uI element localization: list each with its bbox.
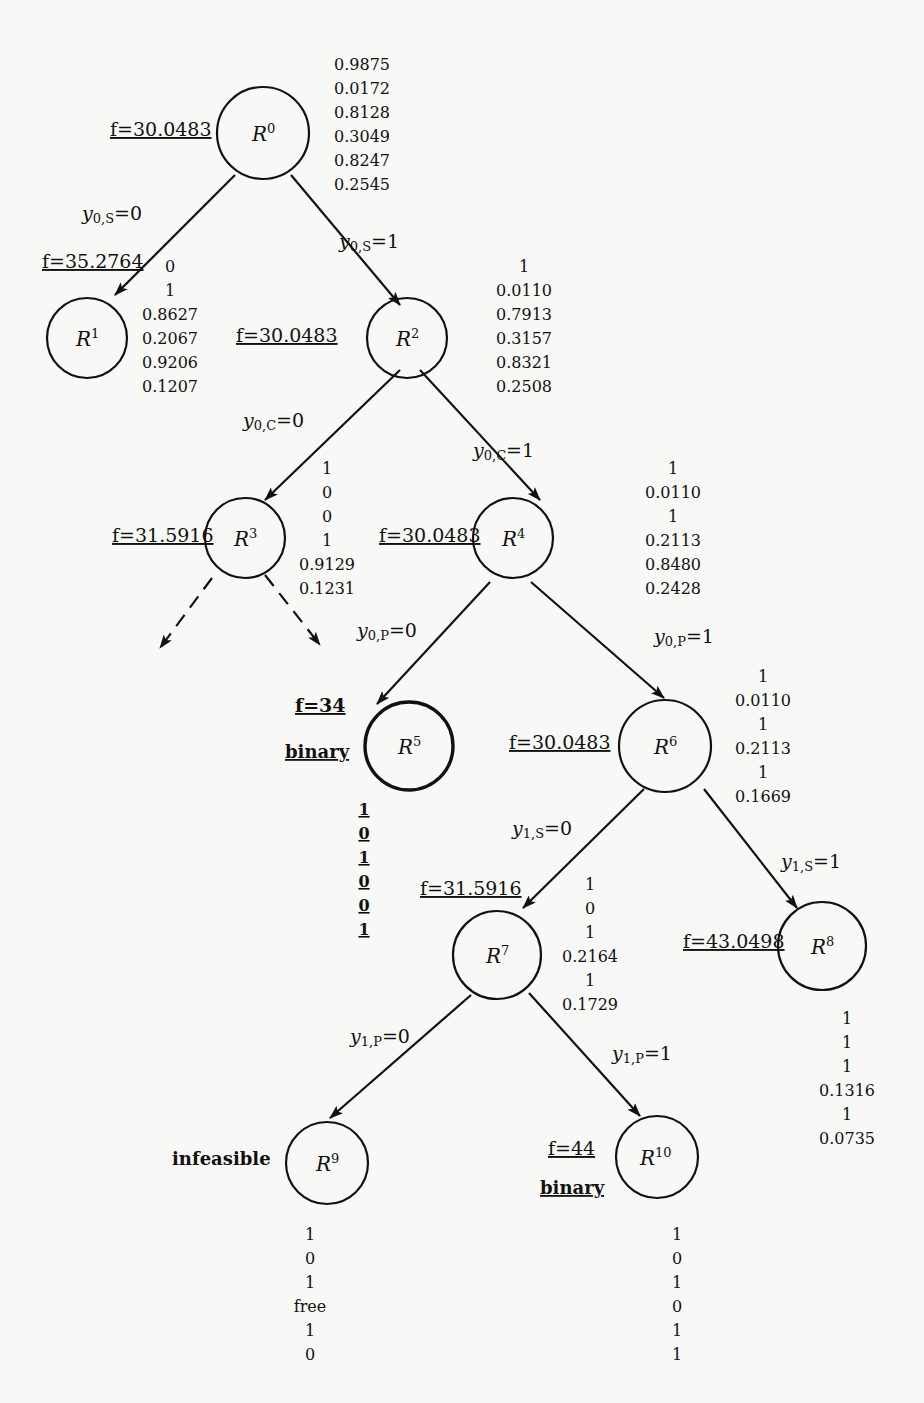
svg-text:1: 1 xyxy=(305,1273,315,1292)
svg-text:1: 1 xyxy=(668,507,678,526)
svg-text:0: 0 xyxy=(358,896,369,915)
node-label: R10 xyxy=(639,1145,672,1170)
objective-value: f=43.0498 xyxy=(683,930,785,952)
svg-text:0: 0 xyxy=(672,1249,682,1268)
svg-text:0.2067: 0.2067 xyxy=(142,329,198,348)
svg-text:1: 1 xyxy=(585,875,595,894)
branch-label-r7-r9: y1,P=0 xyxy=(349,1025,410,1049)
svg-text:1: 1 xyxy=(322,459,332,478)
node-r9: R9 infeasible 1 0 1 free 1 0 xyxy=(172,1122,368,1364)
svg-text:0: 0 xyxy=(672,1297,682,1316)
status-binary: binary xyxy=(540,1177,605,1198)
node-label: R2 xyxy=(395,326,419,351)
solution-vector: 1 0 1 free 1 0 xyxy=(294,1225,327,1364)
svg-text:1: 1 xyxy=(672,1225,682,1244)
objective-value: f=30.0483 xyxy=(509,731,611,753)
svg-text:0.8480: 0.8480 xyxy=(645,555,701,574)
svg-text:0.8128: 0.8128 xyxy=(334,103,390,122)
node-r6: R6 f=30.0483 1 0.0110 1 0.2113 1 0.1669 xyxy=(509,667,791,806)
solution-vector: 1 0 1 0 0 1 xyxy=(358,800,369,939)
objective-value: f=30.0483 xyxy=(379,524,481,546)
objective-value: f=35.2764 xyxy=(42,250,144,272)
svg-text:0.2545: 0.2545 xyxy=(334,175,390,194)
svg-text:0: 0 xyxy=(165,257,175,276)
svg-text:0.8321: 0.8321 xyxy=(496,353,552,372)
svg-text:0.1669: 0.1669 xyxy=(735,787,791,806)
objective-value: f=31.5916 xyxy=(112,524,214,546)
svg-text:0.1231: 0.1231 xyxy=(299,579,355,598)
svg-text:1: 1 xyxy=(758,667,768,686)
solution-vector: 1 0.0110 0.7913 0.3157 0.8321 0.2508 xyxy=(496,257,552,396)
solution-vector: 1 0 0 1 0.9129 0.1231 xyxy=(299,459,355,598)
branch-label-r6-r7: y1,S=0 xyxy=(511,817,572,841)
branch-label-r2-r4: y0,C=1 xyxy=(472,439,534,463)
svg-text:0.9206: 0.9206 xyxy=(142,353,198,372)
node-label: R3 xyxy=(233,526,257,551)
node-r8: R8 f=43.0498 1 1 1 0.1316 1 0.0735 xyxy=(683,902,875,1148)
svg-text:0.2113: 0.2113 xyxy=(645,531,701,550)
svg-text:1: 1 xyxy=(842,1009,852,1028)
edge-r4-r5 xyxy=(377,582,490,704)
solution-vector: 1 0.0110 1 0.2113 0.8480 0.2428 xyxy=(645,459,701,598)
svg-text:0.3049: 0.3049 xyxy=(334,127,390,146)
svg-text:1: 1 xyxy=(758,715,768,734)
svg-text:0.1316: 0.1316 xyxy=(819,1081,875,1100)
svg-text:1: 1 xyxy=(842,1033,852,1052)
svg-text:0.2164: 0.2164 xyxy=(562,947,618,966)
svg-text:0.0110: 0.0110 xyxy=(735,691,791,710)
svg-text:1: 1 xyxy=(672,1273,682,1292)
solution-vector: 0 1 0.8627 0.2067 0.9206 0.1207 xyxy=(142,257,198,396)
objective-value: f=31.5916 xyxy=(420,877,522,899)
svg-text:0.9875: 0.9875 xyxy=(334,55,390,74)
svg-text:0.8247: 0.8247 xyxy=(334,151,390,170)
branch-label-r0-r1: y0,S=0 xyxy=(81,202,142,226)
svg-text:0.3157: 0.3157 xyxy=(496,329,552,348)
svg-text:1: 1 xyxy=(165,281,175,300)
svg-text:0.8627: 0.8627 xyxy=(142,305,198,324)
status-infeasible: infeasible xyxy=(172,1148,271,1169)
node-r10: R10 f=44 binary 1 0 1 0 1 1 xyxy=(540,1116,698,1364)
node-label: R5 xyxy=(397,734,421,759)
node-r7: R7 f=31.5916 1 0 1 0.2164 1 0.1729 xyxy=(420,875,618,1014)
svg-text:1: 1 xyxy=(842,1057,852,1076)
svg-text:0: 0 xyxy=(305,1249,315,1268)
svg-text:1: 1 xyxy=(672,1345,682,1364)
svg-text:0: 0 xyxy=(358,872,369,891)
branch-label-r4-r6: y0,P=1 xyxy=(653,625,714,649)
svg-text:1: 1 xyxy=(305,1225,315,1244)
svg-text:0.9129: 0.9129 xyxy=(299,555,355,574)
svg-text:1: 1 xyxy=(358,800,369,819)
objective-value: f=44 xyxy=(548,1137,595,1159)
node-label: R8 xyxy=(810,934,834,959)
solution-vector: 1 1 1 0.1316 1 0.0735 xyxy=(819,1009,875,1148)
node-label: R4 xyxy=(501,526,525,551)
edge-r2-r3 xyxy=(265,370,400,500)
edge-r7-r9 xyxy=(330,995,471,1118)
svg-text:0.2428: 0.2428 xyxy=(645,579,701,598)
status-binary: binary xyxy=(285,741,350,762)
svg-text:free: free xyxy=(294,1297,327,1316)
branch-label-r7-r10: y1,P=1 xyxy=(611,1042,672,1066)
objective-value: f=30.0483 xyxy=(110,118,212,140)
edge-r6-r8 xyxy=(704,789,797,908)
svg-text:0.2508: 0.2508 xyxy=(496,377,552,396)
node-label: R6 xyxy=(653,734,677,759)
svg-text:1: 1 xyxy=(668,459,678,478)
node-r3: R3 f=31.5916 1 0 0 1 0.9129 0.1231 xyxy=(112,459,355,598)
node-r1: R1 f=35.2764 0 1 0.8627 0.2067 0.9206 0.… xyxy=(42,250,198,396)
objective-value: f=30.0483 xyxy=(236,324,338,346)
svg-text:0: 0 xyxy=(322,507,332,526)
node-r5: R5 f=34 binary 1 0 1 0 0 1 xyxy=(285,694,453,939)
svg-text:1: 1 xyxy=(358,848,369,867)
svg-text:0: 0 xyxy=(585,899,595,918)
svg-text:1: 1 xyxy=(519,257,529,276)
node-r0: R0 f=30.0483 0.9875 0.0172 0.8128 0.3049… xyxy=(110,55,390,194)
svg-text:0: 0 xyxy=(322,483,332,502)
solution-vector: 0.9875 0.0172 0.8128 0.3049 0.8247 0.254… xyxy=(334,55,390,194)
edge-r3-left-dashed xyxy=(160,578,212,648)
solution-vector: 1 0 1 0 1 1 xyxy=(672,1225,682,1364)
svg-text:1: 1 xyxy=(758,763,768,782)
svg-text:0.1729: 0.1729 xyxy=(562,995,618,1014)
edge-r6-r7 xyxy=(523,789,644,908)
svg-text:0.7913: 0.7913 xyxy=(496,305,552,324)
